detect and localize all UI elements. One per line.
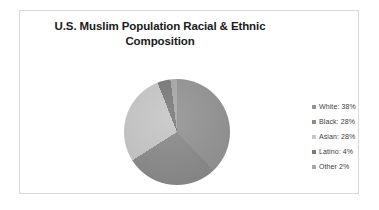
legend-item-label: Other 2% (319, 162, 349, 171)
legend-square-marker (312, 165, 316, 169)
legend-item[interactable]: Latino: 4% (312, 144, 378, 159)
legend-square-marker (312, 135, 316, 139)
pie-plot-area (108, 79, 236, 201)
pie-chart[interactable] (124, 79, 230, 185)
chart-legend: White: 38%Black: 28%Asian: 28%Latino: 4%… (312, 99, 378, 174)
legend-item-label: Asian: 28% (319, 132, 355, 141)
legend-item-label: White: 38% (319, 102, 356, 111)
chart-title: U.S. Muslim Population Racial & Ethnic C… (34, 19, 286, 49)
legend-item[interactable]: White: 38% (312, 99, 378, 114)
legend-square-marker (312, 105, 316, 109)
legend-square-marker (312, 120, 316, 124)
legend-square-marker (312, 150, 316, 154)
legend-item-label: Black: 28% (319, 117, 355, 126)
legend-item[interactable]: Asian: 28% (312, 129, 378, 144)
legend-item[interactable]: Other 2% (312, 159, 378, 174)
chart-frame: U.S. Muslim Population Racial & Ethnic C… (19, 10, 359, 194)
legend-item-label: Latino: 4% (319, 147, 353, 156)
legend-item[interactable]: Black: 28% (312, 114, 378, 129)
chart-screenshot: U.S. Muslim Population Racial & Ethnic C… (0, 0, 379, 210)
